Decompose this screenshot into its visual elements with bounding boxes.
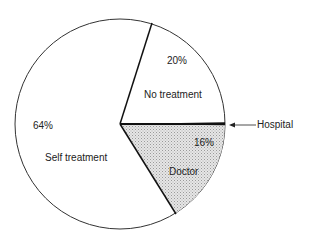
self-treatment-label: Self treatment (45, 153, 107, 163)
doctor-label: Doctor (169, 167, 198, 177)
self-treatment-percent: 64% (33, 121, 53, 131)
arrow-head-icon (229, 123, 235, 128)
hospital-callout-label: Hospital (257, 120, 293, 130)
doctor-percent: 16% (194, 138, 214, 148)
no-treatment-percent: 20% (167, 56, 187, 66)
no-treatment-label: No treatment (144, 90, 202, 100)
